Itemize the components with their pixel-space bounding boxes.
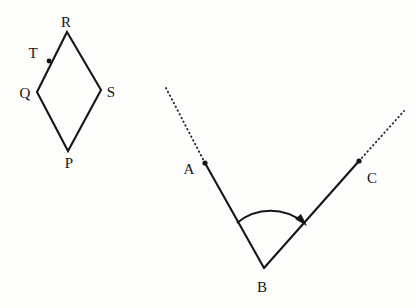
point-t-dot xyxy=(47,59,52,64)
rhombus-pqrs-group: R S P Q T xyxy=(20,14,116,171)
vertex-label-s: S xyxy=(107,84,115,100)
point-a-dot xyxy=(202,160,207,165)
vertex-label-a: A xyxy=(184,161,195,177)
vertex-label-c: C xyxy=(367,170,377,186)
dotted-extension-c xyxy=(359,111,404,161)
vertex-label-q: Q xyxy=(20,85,31,101)
geometry-figure-canvas: R S P Q T A B C xyxy=(0,0,417,308)
ray-bc xyxy=(264,161,359,268)
dotted-extension-a xyxy=(166,88,205,163)
point-c-dot xyxy=(356,158,361,163)
diagram-page: R S P Q T A B C xyxy=(0,0,417,308)
ray-ba xyxy=(205,163,264,268)
vertex-label-p: P xyxy=(65,155,73,171)
rhombus-pqrs-outline xyxy=(37,32,101,151)
vertex-label-r: R xyxy=(61,14,71,30)
angle-abc-group: A B C xyxy=(166,88,404,295)
angle-arc-arrowhead xyxy=(295,214,307,226)
vertex-label-b: B xyxy=(257,279,267,295)
angle-arc-abc xyxy=(237,211,304,223)
point-label-t: T xyxy=(28,45,37,61)
